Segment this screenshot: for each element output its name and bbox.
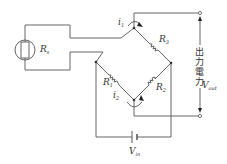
vout-label: Vout — [202, 80, 218, 91]
battery-vin — [132, 131, 137, 143]
circuit-diagram: Rs i1 i2 R3 R2 R1 出 — [0, 0, 227, 164]
sensor-resistor-rs — [15, 40, 35, 60]
vin-label: Vin — [129, 146, 140, 157]
output-terminal-top — [198, 11, 201, 14]
current-i1-arrow — [128, 21, 143, 27]
svg-text:力: 力 — [195, 56, 204, 67]
resistor-r3 — [150, 44, 160, 52]
r2-label: R2 — [155, 82, 166, 93]
svg-text:電: 電 — [195, 67, 204, 77]
i2-label: i2 — [113, 90, 119, 101]
output-terminal-bottom — [198, 114, 201, 117]
sensor-label: Rs — [39, 44, 50, 55]
resistor-r2 — [147, 77, 155, 87]
svg-text:出: 出 — [195, 46, 204, 57]
r1-label: R1 — [102, 77, 113, 88]
i1-label: i1 — [118, 17, 124, 28]
r3-label: R3 — [158, 34, 169, 45]
current-i2-arrow — [127, 95, 144, 107]
